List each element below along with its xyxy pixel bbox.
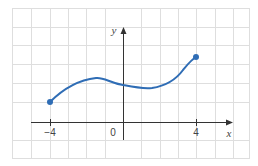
x-axis-arrow-icon [226,120,233,126]
y-axis-arrow-icon [121,27,127,34]
right-endpoint-dot [193,54,199,60]
origin-label: 0 [110,127,116,138]
chart-canvas: −4 0 4 x y [0,0,258,166]
left-endpoint-dot [47,99,53,105]
x-axis-label: x [226,127,232,139]
y-axis-label: y [111,24,117,36]
x-tick-label-4: 4 [193,127,199,138]
function-graph: −4 0 4 x y [0,0,258,166]
x-tick-label-neg4: −4 [44,127,56,138]
